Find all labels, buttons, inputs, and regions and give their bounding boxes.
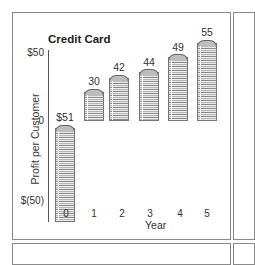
data-label-year-3: 44 — [134, 56, 164, 68]
bar-year-4 — [168, 57, 188, 121]
y-axis-line — [48, 50, 49, 222]
y-tick-neg50: $(50) — [4, 195, 44, 206]
data-label-year-5: 55 — [192, 26, 222, 38]
x-tick-2: 2 — [115, 208, 129, 219]
x-tick-4: 4 — [173, 208, 187, 219]
x-axis-label: Year — [145, 219, 166, 231]
adjacent-chart-frame-right — [233, 12, 255, 240]
bar-year-5 — [197, 43, 217, 121]
data-label-year-1: 30 — [79, 75, 109, 87]
bar-year-1 — [84, 92, 104, 121]
adjacent-chart-frame-bottom-right — [233, 243, 255, 265]
data-label-year-0: $51 — [50, 111, 80, 123]
x-tick-1: 1 — [87, 208, 101, 219]
bar-year-3 — [139, 72, 159, 121]
y-tick-0: 0 — [4, 115, 44, 126]
bar-year-2 — [109, 78, 129, 121]
x-tick-0: 0 — [59, 208, 73, 219]
chart-title: Credit Card — [48, 33, 111, 45]
y-tick-50: $50 — [4, 47, 44, 58]
y-axis-label: Profit per Customer — [29, 84, 41, 194]
x-tick-5: 5 — [200, 208, 214, 219]
x-tick-3: 3 — [143, 208, 157, 219]
data-label-year-2: 42 — [104, 61, 134, 73]
adjacent-chart-frame-bottom — [12, 243, 231, 265]
data-label-year-4: 49 — [163, 41, 193, 53]
